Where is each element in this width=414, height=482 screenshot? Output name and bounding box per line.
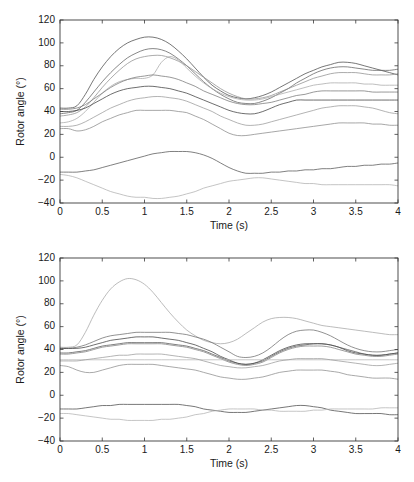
y-tick-label: −20 <box>38 412 55 423</box>
x-tick-label: 0 <box>57 206 63 217</box>
x-tick-label: 3.5 <box>349 444 363 455</box>
trace-gen-2 <box>60 330 398 358</box>
x-tick-label: 2.5 <box>264 444 278 455</box>
trace-gen-10 <box>60 408 398 421</box>
trace-gen-5 <box>60 75 398 109</box>
trace-gen-8 <box>60 110 398 136</box>
y-tick-label: 80 <box>44 59 56 70</box>
chart-panel-top: 00.511.522.533.54−40−20020406080100120Ti… <box>0 0 414 241</box>
trace-group <box>60 278 398 420</box>
trace-gen-3 <box>60 55 398 116</box>
x-tick-label: 2 <box>226 206 232 217</box>
y-tick-label: 80 <box>44 297 56 308</box>
x-tick-label: 3 <box>311 206 317 217</box>
x-tick-label: 2.5 <box>264 206 278 217</box>
y-tick-label: 100 <box>38 37 55 48</box>
y-tick-label: 100 <box>38 275 55 286</box>
y-tick-label: 0 <box>49 389 55 400</box>
trace-gen-9 <box>60 151 398 173</box>
y-tick-label: 120 <box>38 14 55 25</box>
y-tick-label: 20 <box>44 128 56 139</box>
y-tick-label: −40 <box>38 197 55 208</box>
y-tick-label: −40 <box>38 435 55 446</box>
x-tick-label: 2 <box>226 444 232 455</box>
y-tick-label: 0 <box>49 151 55 162</box>
trace-gen-3 <box>60 337 398 365</box>
y-tick-label: 20 <box>44 366 56 377</box>
y-tick-label: 120 <box>38 252 55 263</box>
x-tick-label: 3.5 <box>349 206 363 217</box>
x-tick-label: 3 <box>311 444 317 455</box>
x-tick-label: 0.5 <box>95 444 109 455</box>
trace-gen-9 <box>60 404 398 414</box>
x-tick-label: 4 <box>395 444 401 455</box>
y-tick-label: −20 <box>38 174 55 185</box>
x-tick-label: 0.5 <box>95 206 109 217</box>
axes-box <box>60 20 398 203</box>
chart-top-svg: 00.511.522.533.54−40−20020406080100120Ti… <box>0 0 414 241</box>
rotor-angle-figure: 00.511.522.533.54−40−20020406080100120Ti… <box>0 0 414 482</box>
trace-gen-2 <box>60 49 398 114</box>
x-tick-label: 1.5 <box>180 206 194 217</box>
trace-gen-1 <box>60 278 398 347</box>
y-tick-label: 40 <box>44 105 56 116</box>
x-tick-label: 1 <box>142 444 148 455</box>
y-axis-title: Rotor angle (°) <box>14 77 26 145</box>
trace-gen-6 <box>60 86 398 114</box>
trace-group <box>60 37 398 199</box>
chart-bottom-svg: 00.511.522.533.54−40−20020406080100120Ti… <box>0 241 414 482</box>
x-axis-title: Time (s) <box>210 457 248 469</box>
x-tick-label: 1.5 <box>180 444 194 455</box>
y-tick-label: 60 <box>44 82 56 93</box>
x-tick-label: 0 <box>57 444 63 455</box>
y-tick-label: 40 <box>44 343 56 354</box>
y-axis: −40−20020406080100120 <box>38 14 398 208</box>
trace-gen-4 <box>60 57 398 123</box>
y-tick-label: 60 <box>44 320 56 331</box>
x-axis-title: Time (s) <box>210 219 248 231</box>
x-tick-label: 1 <box>142 206 148 217</box>
chart-panel-bottom: 00.511.522.533.54−40−20020406080100120Ti… <box>0 241 414 482</box>
x-tick-label: 4 <box>395 206 401 217</box>
x-axis: 00.511.522.533.54 <box>57 20 401 217</box>
y-axis-title: Rotor angle (°) <box>14 315 26 383</box>
trace-gen-10 <box>60 174 398 198</box>
